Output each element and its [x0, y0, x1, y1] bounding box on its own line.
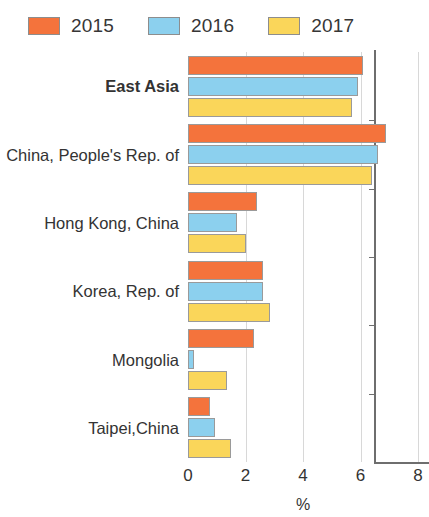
bar-2017: [188, 98, 352, 117]
y-tick-mark: [369, 325, 375, 326]
plot-area: [188, 52, 418, 462]
legend-label-2016: 2016: [191, 15, 234, 37]
x-tick-label-6: 6: [346, 466, 376, 486]
bar-2017: [188, 439, 231, 458]
gridline-6: [361, 52, 362, 462]
bar-2016: [188, 213, 237, 232]
gridline-8: [418, 52, 419, 462]
x-tick-labels: 02468: [188, 466, 429, 492]
bar-2015: [188, 329, 254, 348]
legend-item-2015: 2015: [28, 15, 114, 37]
bar-2015: [188, 261, 263, 280]
bar-2015: [188, 124, 386, 143]
bar-2016: [188, 145, 378, 164]
legend-item-2016: 2016: [148, 15, 234, 37]
legend-item-2017: 2017: [268, 15, 354, 37]
bar-2017: [188, 371, 227, 390]
bar-2015: [188, 56, 363, 75]
legend-label-2015: 2015: [71, 15, 114, 37]
bar-2015: [188, 397, 210, 416]
bar-2016: [188, 282, 263, 301]
bar-chart: East AsiaChina, People's Rep. ofHong Kon…: [0, 52, 429, 517]
category-label: East Asia: [0, 78, 179, 95]
legend-label-2017: 2017: [311, 15, 354, 37]
x-tick-label-2: 2: [231, 466, 261, 486]
category-label: Mongolia: [0, 352, 179, 369]
x-tick-label-4: 4: [288, 466, 318, 486]
y-tick-mark: [369, 189, 375, 190]
x-tick-label-0: 0: [173, 466, 203, 486]
category-label: Taipei,China: [0, 420, 179, 437]
bar-2017: [188, 166, 372, 185]
category-label: Hong Kong, China: [0, 215, 179, 232]
x-tick-label-8: 8: [403, 466, 429, 486]
y-tick-mark: [369, 257, 375, 258]
category-label: Korea, Rep. of: [0, 283, 179, 300]
bar-2016: [188, 418, 215, 437]
x-axis-line: [374, 462, 429, 464]
bar-2017: [188, 234, 246, 253]
x-axis-title: %: [188, 496, 418, 514]
legend-swatch-2017: [268, 17, 300, 35]
bar-2017: [188, 303, 270, 322]
bar-2015: [188, 192, 257, 211]
category-axis: East AsiaChina, People's Rep. ofHong Kon…: [0, 52, 188, 462]
y-tick-mark: [369, 120, 375, 121]
chart-legend: 2015 2016 2017: [0, 0, 429, 52]
legend-swatch-2016: [148, 17, 180, 35]
category-label: China, People's Rep. of: [0, 147, 179, 164]
bar-2016: [188, 350, 194, 369]
y-tick-mark: [369, 394, 375, 395]
legend-swatch-2015: [28, 17, 60, 35]
bar-2016: [188, 77, 358, 96]
